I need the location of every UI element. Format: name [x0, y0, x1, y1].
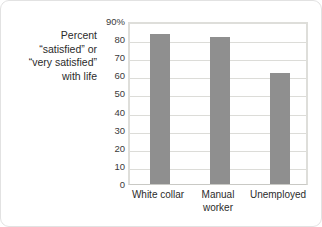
- x-axis-category-labels: White collarManual workerUnemployed: [128, 189, 308, 225]
- y-axis-tick: 30: [87, 126, 125, 136]
- y-axis-tick: 50: [87, 89, 125, 99]
- bar: [210, 37, 230, 184]
- y-axis-tick: 60: [87, 71, 125, 81]
- caption-line-3: “very satisfied”: [9, 56, 97, 70]
- y-axis-tick-labels: 0102030405060708090%: [87, 1, 125, 227]
- y-axis-caption: Percent “satisfied” or “very satisfied” …: [9, 29, 97, 83]
- plot-area: [128, 22, 308, 185]
- x-axis-category: Unemployed: [248, 189, 308, 202]
- caption-line-1: Percent: [9, 29, 97, 43]
- y-axis-tick: 90%: [87, 17, 125, 27]
- x-axis-category: White collar: [128, 189, 188, 202]
- caption-line-2: “satisfied” or: [9, 43, 97, 57]
- bar-series: [130, 24, 306, 184]
- y-axis-tick: 40: [87, 108, 125, 118]
- y-axis-tick: 70: [87, 53, 125, 63]
- x-axis-category: Manual worker: [188, 189, 248, 214]
- bar: [270, 73, 290, 184]
- caption-line-4: with life: [9, 70, 97, 84]
- y-axis-tick: 10: [87, 162, 125, 172]
- chart-card: Percent “satisfied” or “very satisfied” …: [0, 0, 322, 227]
- y-axis-tick: 0: [87, 180, 125, 190]
- y-axis-tick: 20: [87, 144, 125, 154]
- y-axis-tick: 80: [87, 35, 125, 45]
- bar: [150, 34, 170, 184]
